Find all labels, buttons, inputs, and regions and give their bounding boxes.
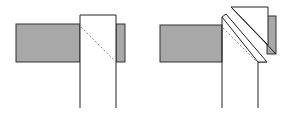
left-gray-bar	[16, 24, 80, 62]
figure-right-mitered-joint	[160, 7, 276, 108]
right-gray-bar	[160, 25, 222, 62]
diagram-canvas	[0, 0, 291, 120]
figure-left-square-joint	[16, 15, 125, 108]
left-white-channel	[80, 15, 116, 108]
left-gray-stub	[116, 24, 125, 62]
